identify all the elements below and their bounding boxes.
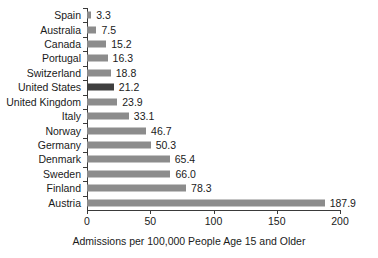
value-label: 187.9 [330,198,356,209]
category-label: Austria [48,198,81,209]
bar [87,41,106,48]
category-label: Australia [40,24,81,35]
x-axis-tick [150,210,151,214]
bar-row: Italy33.1 [87,109,340,123]
y-axis-tick [83,95,87,96]
bar [87,26,96,33]
y-axis-tick [83,196,87,197]
bar-row: Denmark65.4 [87,152,340,166]
bar [87,199,325,206]
y-axis-tick [83,167,87,168]
category-label: Sweden [43,169,81,180]
value-label: 65.4 [175,154,195,165]
bar [87,156,170,163]
plot-area: Spain3.3Australia7.5Canada15.2Portugal16… [87,8,340,210]
y-axis-tick [83,181,87,182]
category-label: Norway [45,125,81,136]
y-axis-tick [83,138,87,139]
bar-row: Sweden66.0 [87,167,340,181]
bar [87,127,146,134]
category-label: Italy [62,111,81,122]
bar-row: Switzerland18.8 [87,66,340,80]
bar-row: United States21.2 [87,80,340,94]
category-label: Spain [54,10,81,21]
bar-row: United Kingdom23.9 [87,95,340,109]
category-label: Switzerland [27,68,81,79]
value-label: 50.3 [156,140,176,151]
y-axis-tick [83,80,87,81]
x-axis-title: Admissions per 100,000 People Age 15 and… [0,236,378,247]
category-label: Germany [38,140,81,151]
bar-row: Norway46.7 [87,123,340,137]
value-label: 16.3 [113,53,133,64]
bar-row: Portugal16.3 [87,51,340,65]
y-axis-tick [83,123,87,124]
x-axis-tick [340,210,341,214]
category-label: United States [18,82,81,93]
category-label: United Kingdom [6,97,81,108]
bar-row: Germany50.3 [87,138,340,152]
y-axis-tick [83,66,87,67]
y-axis-tick [83,152,87,153]
x-axis-tick-label: 100 [205,216,223,227]
x-axis-tick [277,210,278,214]
value-label: 46.7 [151,125,171,136]
category-label: Portugal [42,53,81,64]
bar-row: Canada15.2 [87,37,340,51]
bar [87,69,111,76]
y-axis-tick [83,109,87,110]
y-axis-tick [83,8,87,9]
value-label: 18.8 [116,68,136,79]
bar [87,98,117,105]
bar [87,55,108,62]
bar-row: Austria187.9 [87,196,340,210]
bar-highlighted [87,84,114,91]
bar [87,12,91,19]
y-axis-tick [83,22,87,23]
value-label: 33.1 [134,111,154,122]
category-label: Denmark [38,154,81,165]
y-axis-tick [83,37,87,38]
value-label: 21.2 [119,82,139,93]
bar [87,142,151,149]
y-axis-tick [83,51,87,52]
x-axis-tick-label: 50 [144,216,156,227]
bar-row: Finland78.3 [87,181,340,195]
bar [87,113,129,120]
value-label: 78.3 [191,183,211,194]
value-label: 7.5 [101,24,116,35]
category-label: Finland [47,183,81,194]
bar-chart: Spain3.3Australia7.5Canada15.2Portugal16… [0,0,378,258]
value-label: 15.2 [111,39,131,50]
bar-row: Australia7.5 [87,22,340,36]
value-label: 23.9 [122,97,142,108]
x-axis-tick [214,210,215,214]
x-axis-tick-label: 200 [331,216,349,227]
category-label: Canada [44,39,81,50]
x-axis-tick [87,210,88,214]
bar-row: Spain3.3 [87,8,340,22]
bar [87,185,186,192]
value-label: 3.3 [96,10,111,21]
value-label: 66.0 [175,169,195,180]
x-axis-tick-label: 150 [268,216,286,227]
x-axis-tick-label: 0 [84,216,90,227]
bar [87,170,170,177]
